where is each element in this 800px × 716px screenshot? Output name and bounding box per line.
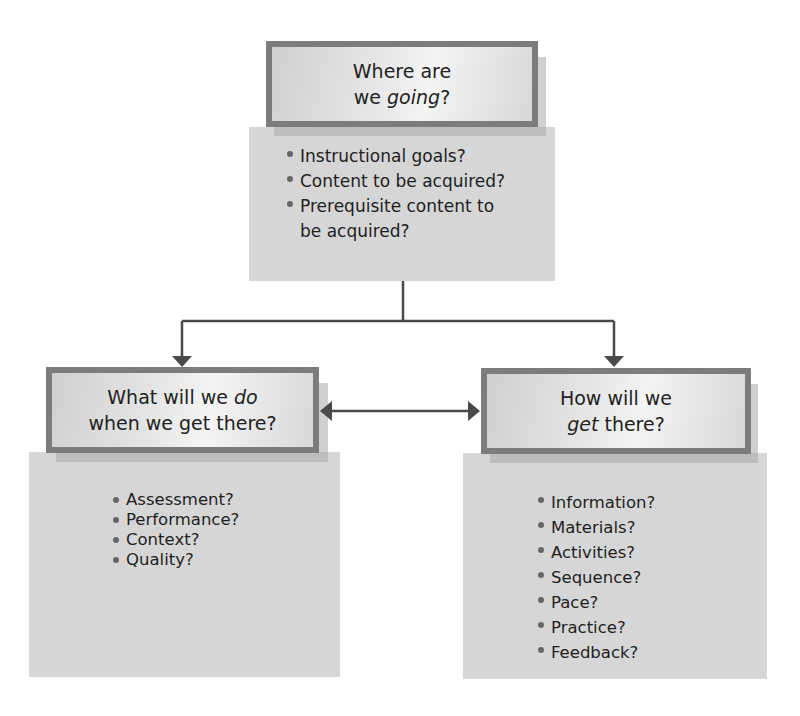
arrow-down-left-icon: [172, 356, 192, 367]
connectors: [0, 0, 800, 716]
arrow-left-icon: [320, 401, 332, 421]
arrow-right-icon: [468, 401, 480, 421]
arrow-down-right-icon: [604, 356, 624, 367]
connector-lines: [182, 281, 614, 411]
